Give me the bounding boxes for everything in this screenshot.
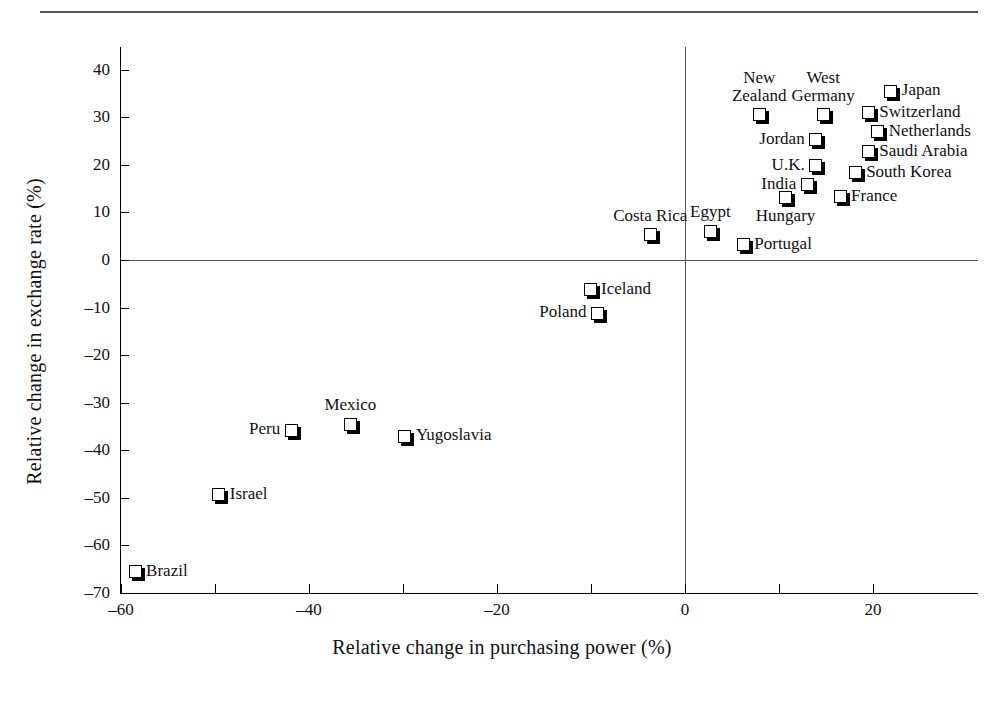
data-point-marker[interactable] [344, 418, 357, 431]
x-tick-mark [497, 584, 498, 593]
data-point-marker[interactable] [834, 190, 847, 203]
y-tick-label: –20 [58, 346, 110, 363]
data-point-marker[interactable] [871, 125, 884, 138]
data-point-marker[interactable] [779, 191, 792, 204]
data-point-label: West Germany [733, 69, 913, 105]
data-point-label: Netherlands [889, 122, 971, 140]
x-tick-mark [685, 584, 686, 593]
data-point-marker[interactable] [212, 488, 225, 501]
y-axis-line [120, 47, 121, 593]
x-tick-label: –60 [91, 601, 151, 618]
y-tick-mark [120, 308, 129, 309]
x-axis-line [120, 593, 978, 594]
x-tick-mark [215, 584, 216, 593]
data-point-marker[interactable] [737, 238, 750, 251]
x-tick-mark [779, 584, 780, 593]
data-point-marker[interactable] [849, 166, 862, 179]
x-tick-label: 0 [655, 601, 715, 618]
y-tick-label: –60 [58, 536, 110, 553]
data-point-marker[interactable] [801, 178, 814, 191]
y-tick-mark [120, 117, 129, 118]
data-point-marker[interactable] [809, 133, 822, 146]
data-point-label: France [851, 187, 897, 205]
data-point-label: Peru [249, 420, 280, 438]
data-point-marker[interactable] [644, 228, 657, 241]
y-tick-mark [120, 260, 129, 261]
figure: 403020100–10–20–30–40–50–60–70 –60–40–20… [0, 0, 1004, 704]
x-axis-title: Relative change in purchasing power (%) [0, 636, 1004, 659]
data-point-label: Costa Rica [560, 207, 740, 225]
data-point-marker[interactable] [704, 225, 717, 238]
data-point-marker[interactable] [809, 159, 822, 172]
zero-vertical-reference-line [685, 47, 686, 593]
x-tick-mark [873, 584, 874, 593]
y-tick-label: 30 [58, 108, 110, 125]
data-point-label: Mexico [260, 396, 440, 414]
y-tick-label: 20 [58, 156, 110, 173]
y-tick-label: 40 [58, 61, 110, 78]
y-tick-mark [120, 355, 129, 356]
scatter-plot: 403020100–10–20–30–40–50–60–70 –60–40–20… [0, 0, 1004, 704]
data-point-label: Iceland [601, 280, 651, 298]
x-tick-mark [121, 584, 122, 593]
y-tick-mark [120, 403, 129, 404]
x-tick-mark [309, 584, 310, 593]
data-point-label: Israel [230, 485, 268, 503]
data-point-label: Yugoslavia [416, 426, 492, 444]
y-tick-mark [120, 593, 129, 594]
x-tick-label: –20 [467, 601, 527, 618]
data-point-marker[interactable] [817, 108, 830, 121]
data-point-label: India [761, 175, 796, 193]
y-tick-mark [120, 498, 129, 499]
y-tick-mark [120, 165, 129, 166]
data-point-marker[interactable] [862, 106, 875, 119]
data-point-marker[interactable] [584, 283, 597, 296]
data-point-label: Portugal [754, 235, 812, 253]
data-point-marker[interactable] [591, 307, 604, 320]
y-tick-mark [120, 450, 129, 451]
x-tick-label: –40 [279, 601, 339, 618]
data-point-marker[interactable] [753, 108, 766, 121]
data-point-label: Switzerland [879, 103, 960, 121]
y-axis-title: Relative change in exchange rate (%) [23, 52, 46, 612]
x-tick-mark [403, 584, 404, 593]
data-point-label: U.K. [772, 156, 805, 174]
y-tick-label: 10 [58, 203, 110, 220]
data-point-marker[interactable] [862, 145, 875, 158]
y-tick-label: –30 [58, 394, 110, 411]
zero-horizontal-reference-line [120, 260, 978, 261]
y-tick-label: –50 [58, 489, 110, 506]
data-point-label: South Korea [866, 163, 951, 181]
y-tick-label: –10 [58, 299, 110, 316]
y-tick-label: 0 [58, 251, 110, 268]
data-point-marker[interactable] [285, 424, 298, 437]
data-point-label: Brazil [146, 562, 188, 580]
x-tick-mark [591, 584, 592, 593]
data-point-label: Jordan [759, 130, 804, 148]
data-point-label: Saudi Arabia [879, 142, 967, 160]
y-tick-mark [120, 212, 129, 213]
y-tick-mark [120, 545, 129, 546]
y-tick-label: –40 [58, 441, 110, 458]
y-tick-label: –70 [58, 584, 110, 601]
data-point-marker[interactable] [398, 430, 411, 443]
data-point-label: Poland [539, 303, 586, 321]
y-tick-mark [120, 70, 129, 71]
data-point-marker[interactable] [129, 565, 142, 578]
x-tick-label: 20 [843, 601, 903, 618]
